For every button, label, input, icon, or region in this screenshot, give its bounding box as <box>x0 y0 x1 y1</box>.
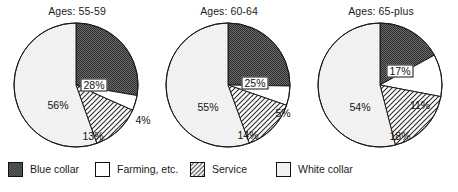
legend-label: Blue collar <box>30 163 79 175</box>
slice-value-label: 56% <box>47 100 68 111</box>
slice-value-label: 17% <box>386 65 413 78</box>
legend: Blue collar Farming, etc. Service <box>0 158 458 188</box>
legend-swatch-farming <box>95 162 110 177</box>
pie-plot-area <box>164 21 292 149</box>
slice-value-label: 5% <box>275 108 290 119</box>
legend-item-farming: Farming, etc. <box>95 160 178 178</box>
slice-value-label: 28% <box>80 79 107 92</box>
slice-value-label: 55% <box>197 102 218 113</box>
pie-plot-area <box>316 21 444 149</box>
pie-chart-ages-60-64: Ages: 60-64 25%5%14%55% <box>153 0 305 155</box>
legend-swatch-white-collar <box>276 162 291 177</box>
slice-value-label: 25% <box>241 77 268 90</box>
pie-svg <box>164 21 292 149</box>
pie-chart-figure: Ages: 55-59 28%4%13%56% Ages: 60-64 <box>0 0 458 192</box>
legend-label: White collar <box>298 163 353 175</box>
legend-swatch-service <box>190 162 205 177</box>
legend-label: Farming, etc. <box>117 163 178 175</box>
slice-value-label: 4% <box>135 115 150 126</box>
slice-value-label: 11% <box>410 100 430 111</box>
pie-chart-ages-55-59: Ages: 55-59 28%4%13%56% <box>1 0 153 155</box>
slice-value-label: 13% <box>82 131 103 142</box>
pie-svg <box>12 21 140 149</box>
slice-value-label: 54% <box>349 102 370 113</box>
pie-plot-area <box>12 21 140 149</box>
chart-title: Ages: 65-plus <box>305 5 457 17</box>
legend-item-service: Service <box>190 160 247 178</box>
legend-item-blue-collar: Blue collar <box>8 160 79 178</box>
legend-item-white-collar: White collar <box>276 160 353 178</box>
slice-value-label: 18% <box>389 131 410 142</box>
chart-title: Ages: 60-64 <box>153 5 305 17</box>
legend-swatch-blue-collar <box>8 162 23 177</box>
pie-chart-ages-65-plus: Ages: 65-plus 17%11%18%54% <box>305 0 457 155</box>
legend-label: Service <box>212 163 247 175</box>
slice-value-label: 14% <box>237 130 258 141</box>
pie-svg <box>316 21 444 149</box>
chart-title: Ages: 55-59 <box>1 5 153 17</box>
